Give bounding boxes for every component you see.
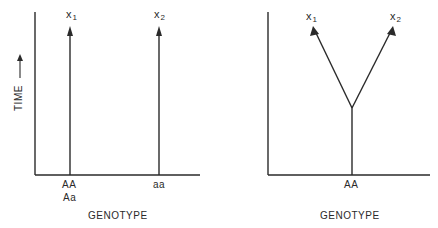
right-panel-axes [268, 12, 430, 175]
genotype-label-aa: aa [153, 179, 165, 190]
outcome-label-x2: x2 [154, 8, 165, 22]
genotype-label-AA-right: AA [344, 179, 358, 190]
branch-subscript: 2 [397, 15, 401, 24]
right-branch-x2 [352, 26, 396, 108]
left-arrow-x1 [67, 26, 73, 175]
right-branch-x1 [310, 26, 352, 108]
outcome-subscript: 1 [73, 13, 77, 22]
genotype-label-Aa: Aa [63, 192, 76, 203]
outcome-var: x [66, 8, 72, 20]
y-axis-label-time: TIME [13, 85, 24, 111]
branch-var: x [390, 10, 396, 22]
outcome-subscript: 2 [161, 13, 165, 22]
branch-var: x [306, 10, 312, 22]
genotype-label-AA: AA [62, 179, 76, 190]
time-arrow [17, 54, 23, 78]
branch-subscript: 1 [313, 15, 317, 24]
branch-label-x2: x2 [390, 10, 401, 24]
left-arrow-x2 [156, 26, 162, 175]
left-panel-axes [35, 12, 200, 175]
x-axis-label-genotype-right: GENOTYPE [320, 210, 380, 221]
branch-label-x1: x1 [306, 10, 317, 24]
x-axis-label-genotype-left: GENOTYPE [88, 210, 148, 221]
outcome-label-x1: x1 [66, 8, 77, 22]
outcome-var: x [154, 8, 160, 20]
